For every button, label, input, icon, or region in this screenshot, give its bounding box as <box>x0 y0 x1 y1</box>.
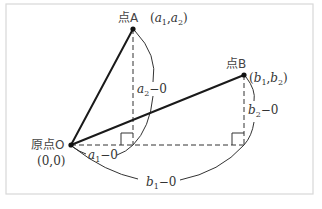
coordinate-diagram: 点A (a1,a2) 点B (b1,b2) 原点O (0,0) a2−0 a1−… <box>0 0 322 209</box>
point-a-coords: (a1,a2) <box>150 11 188 27</box>
point-a-label: 点A <box>118 11 139 25</box>
origin-dot <box>68 142 73 147</box>
point-b-label: 点B <box>226 57 246 71</box>
label-b1-minus-0: b1−0 <box>146 175 176 191</box>
origin-coords: (0,0) <box>37 154 65 168</box>
label-a2-minus-0: a2−0 <box>137 82 167 98</box>
label-a1-minus-0: a1−0 <box>88 148 118 164</box>
point-a-dot <box>130 26 135 31</box>
label-b2-minus-0: b2−0 <box>248 103 278 119</box>
point-b-dot <box>241 72 246 77</box>
origin-label: 原点O <box>31 138 64 152</box>
